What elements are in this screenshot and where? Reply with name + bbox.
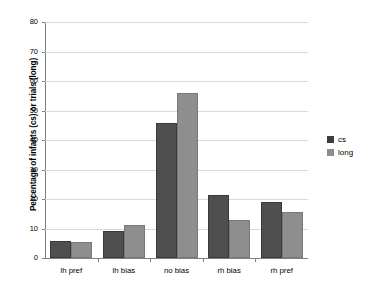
bar-cs-rh-bias (208, 195, 229, 258)
bar-cs-no-bias (156, 123, 177, 258)
x-tick-label: no bias (147, 266, 207, 275)
y-tick-label: 10 (10, 225, 38, 233)
y-tick-label: 50 (10, 107, 38, 115)
x-tick-mark (150, 259, 151, 262)
y-tick-label: 70 (10, 48, 38, 56)
x-tick-label: rh bias (199, 266, 259, 275)
y-tick-label: 30 (10, 166, 38, 174)
x-tick-mark (98, 259, 99, 262)
gridline (45, 81, 308, 82)
bar-long-rh-bias (229, 220, 250, 258)
legend-swatch-long-icon (327, 149, 334, 156)
bar-cs-rh-pref (261, 202, 282, 258)
legend-swatch-cs-icon (327, 136, 334, 143)
legend: cs long (327, 133, 353, 159)
bar-chart: Percentage of infants (cs) or trials (lo… (0, 0, 386, 305)
x-axis-line (45, 258, 308, 259)
legend-label-long: long (338, 149, 353, 157)
legend-item-long: long (327, 146, 353, 159)
y-tick-label: 0 (10, 254, 38, 262)
y-tick-mark (42, 258, 45, 259)
y-tick-label: 40 (10, 136, 38, 144)
gridline (45, 52, 308, 53)
plot-area (45, 22, 308, 258)
legend-item-cs: cs (327, 133, 353, 146)
bar-long-lh-bias (124, 225, 145, 258)
legend-label-cs: cs (338, 136, 346, 144)
x-tick-mark (203, 259, 204, 262)
y-tick-label: 80 (10, 18, 38, 26)
x-tick-label: rh pref (252, 266, 312, 275)
bar-long-rh-pref (282, 212, 303, 258)
bar-long-no-bias (177, 93, 198, 258)
bar-cs-lh-bias (103, 231, 124, 258)
x-tick-label: lh bias (94, 266, 154, 275)
gridline (45, 22, 308, 23)
bar-cs-lh-pref (50, 241, 71, 258)
bar-long-lh-pref (71, 242, 92, 258)
y-tick-label: 20 (10, 195, 38, 203)
y-tick-label: 60 (10, 77, 38, 85)
x-tick-label: lh pref (41, 266, 101, 275)
x-tick-mark (255, 259, 256, 262)
